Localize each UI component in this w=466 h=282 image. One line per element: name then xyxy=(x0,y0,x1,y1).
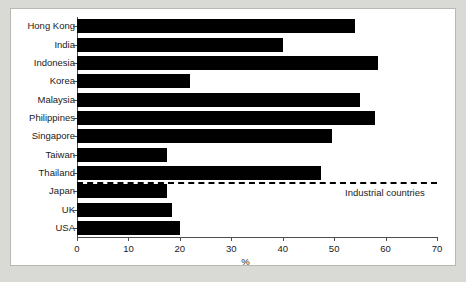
x-axis-tick-label: 40 xyxy=(268,244,298,254)
category-label: Korea xyxy=(13,76,75,86)
x-axis-tick-label: 50 xyxy=(319,244,349,254)
x-axis-tick xyxy=(128,237,129,241)
y-axis-tick xyxy=(73,191,77,192)
x-axis-tick-label: 60 xyxy=(371,244,401,254)
x-axis-tick xyxy=(334,237,335,241)
y-axis-tick xyxy=(73,26,77,27)
category-label: Malaysia xyxy=(13,95,75,105)
y-axis-tick xyxy=(73,45,77,46)
category-label: Hong Kong xyxy=(13,21,75,31)
industrial-countries-annotation: Industrial countries xyxy=(345,187,425,198)
y-axis-tick xyxy=(73,136,77,137)
bar xyxy=(77,166,321,180)
industrial-countries-divider-line xyxy=(77,182,437,184)
bar xyxy=(77,19,355,33)
plot-area: 010203040506070Industrial countries xyxy=(77,17,437,237)
x-axis-line xyxy=(77,237,437,238)
category-label: Thailand xyxy=(13,168,75,178)
chart-area: Hong KongIndiaIndonesiaKoreaMalaysiaPhil… xyxy=(11,9,457,267)
bar xyxy=(77,184,167,198)
x-axis-tick xyxy=(283,237,284,241)
x-axis-tick xyxy=(77,237,78,241)
category-label: Indonesia xyxy=(13,58,75,68)
bar xyxy=(77,38,283,52)
bar xyxy=(77,221,180,235)
category-label: Singapore xyxy=(13,131,75,141)
y-axis-tick xyxy=(73,228,77,229)
x-axis-tick xyxy=(180,237,181,241)
chart-panel: Hong KongIndiaIndonesiaKoreaMalaysiaPhil… xyxy=(10,8,456,266)
y-axis-tick xyxy=(73,210,77,211)
bar xyxy=(77,111,375,125)
category-label: Taiwan xyxy=(13,150,75,160)
x-axis-tick-label: 70 xyxy=(422,244,452,254)
x-axis-tick-label: 30 xyxy=(216,244,246,254)
y-axis-tick xyxy=(73,155,77,156)
bar xyxy=(77,129,332,143)
category-label: Japan xyxy=(13,186,75,196)
figure: Hong KongIndiaIndonesiaKoreaMalaysiaPhil… xyxy=(0,0,466,282)
x-axis-tick-label: 20 xyxy=(165,244,195,254)
category-label: UK xyxy=(13,205,75,215)
bar xyxy=(77,74,190,88)
y-axis-tick xyxy=(73,173,77,174)
bar xyxy=(77,93,360,107)
y-axis-tick xyxy=(73,63,77,64)
x-axis-tick xyxy=(386,237,387,241)
x-axis-title: % xyxy=(241,257,249,267)
y-axis-tick xyxy=(73,81,77,82)
bar xyxy=(77,56,378,70)
category-axis-labels: Hong KongIndiaIndonesiaKoreaMalaysiaPhil… xyxy=(11,9,75,267)
x-axis-tick-label: 0 xyxy=(62,244,92,254)
bar xyxy=(77,203,172,217)
y-axis-tick xyxy=(73,118,77,119)
category-label: India xyxy=(13,40,75,50)
category-label: Philippines xyxy=(13,113,75,123)
x-axis-tick xyxy=(231,237,232,241)
x-axis-tick xyxy=(437,237,438,241)
y-axis-tick xyxy=(73,100,77,101)
bar xyxy=(77,148,167,162)
category-label: USA xyxy=(13,223,75,233)
x-axis-tick-label: 10 xyxy=(113,244,143,254)
